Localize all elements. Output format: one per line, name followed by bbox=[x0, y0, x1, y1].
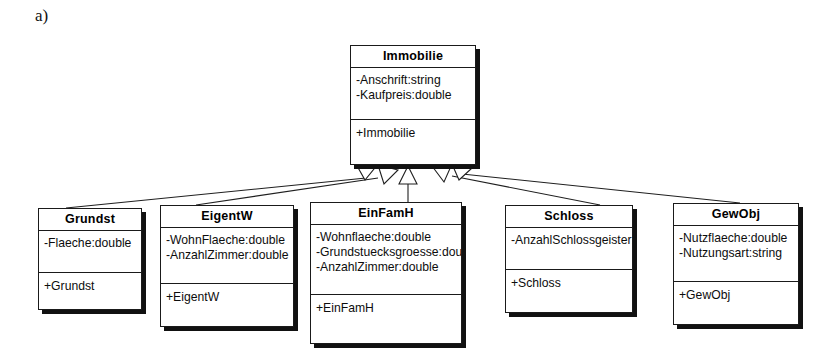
class-attributes-gewobj: -Nutzflaeche:double -Nutzungsart:string bbox=[674, 226, 798, 282]
class-attributes-eigentw: -WohnFlaeche:double -AnzahlZimmer:double bbox=[161, 228, 293, 284]
attribute-row: -Nutzungsart:string bbox=[679, 246, 798, 261]
class-box-schloss[interactable]: Schloss -AnzahlSchlossgeister:int +Schlo… bbox=[505, 205, 633, 313]
class-box-eigentw[interactable]: EigentW -WohnFlaeche:double -AnzahlZimme… bbox=[160, 205, 294, 327]
uml-class-diagram: a) Immobilie -Ansc bbox=[0, 0, 835, 362]
attribute-row: -WohnFlaeche:double bbox=[166, 233, 293, 248]
attribute-row: -AnzahlZimmer:double bbox=[166, 248, 293, 263]
attribute-row: -Nutzflaeche:double bbox=[679, 231, 798, 246]
operation-row: +Grundst bbox=[44, 279, 141, 294]
operation-row: +GewObj bbox=[679, 288, 798, 303]
class-operations-eigentw: +EigentW C++ bbox=[161, 284, 293, 327]
class-operations-schloss: +Schloss C++ bbox=[506, 270, 632, 313]
operation-row: +Schloss bbox=[511, 276, 632, 291]
class-box-grundst[interactable]: Grundst -Flaeche:double +Grundst C++ bbox=[38, 208, 142, 310]
operation-row: +EinFamH bbox=[316, 301, 461, 316]
attribute-row: -Kaufpreis:double bbox=[356, 88, 475, 103]
class-operations-grundst: +Grundst C++ bbox=[39, 273, 141, 310]
operation-row: +Immobilie bbox=[356, 126, 475, 141]
class-attributes-einfamh: -Wohnflaeche:double -Grundstuecksgroesse… bbox=[311, 225, 461, 295]
attribute-row: -Grundstuecksgroesse:double bbox=[316, 245, 461, 260]
generalization-einfamh bbox=[399, 166, 417, 202]
class-attributes-schloss: -AnzahlSchlossgeister:int bbox=[506, 228, 632, 270]
operation-row: +EigentW bbox=[166, 290, 293, 305]
generalization-gewobj bbox=[452, 164, 740, 203]
attribute-row: -Anschrift:string bbox=[356, 73, 475, 88]
class-name-gewobj: GewObj bbox=[674, 204, 798, 226]
class-name-einfamh: EinFamH bbox=[311, 203, 461, 225]
class-box-gewobj[interactable]: GewObj -Nutzflaeche:double -Nutzungsart:… bbox=[673, 203, 799, 325]
class-attributes-immobilie: -Anschrift:string -Kaufpreis:double bbox=[351, 68, 475, 120]
class-operations-einfamh: +EinFamH C++ bbox=[311, 295, 461, 344]
class-box-einfamh[interactable]: EinFamH -Wohnflaeche:double -Grundstueck… bbox=[310, 202, 462, 344]
attribute-row: -AnzahlZimmer:double bbox=[316, 260, 461, 275]
attribute-row: -Wohnflaeche:double bbox=[316, 230, 461, 245]
class-operations-gewobj: +GewObj C++ bbox=[674, 282, 798, 325]
class-name-immobilie: Immobilie bbox=[351, 46, 475, 68]
class-attributes-grundst: -Flaeche:double bbox=[39, 231, 141, 273]
class-operations-immobilie: +Immobilie C++ bbox=[351, 120, 475, 165]
class-name-eigentw: EigentW bbox=[161, 206, 293, 228]
class-name-grundst: Grundst bbox=[39, 209, 141, 231]
class-name-schloss: Schloss bbox=[506, 206, 632, 228]
language-tag: C++ bbox=[445, 163, 469, 165]
attribute-row: -Flaeche:double bbox=[44, 236, 141, 251]
class-box-immobilie[interactable]: Immobilie -Anschrift:string -Kaufpreis:d… bbox=[350, 45, 476, 165]
section-label: a) bbox=[35, 6, 48, 26]
attribute-row: -AnzahlSchlossgeister:int bbox=[511, 233, 632, 248]
